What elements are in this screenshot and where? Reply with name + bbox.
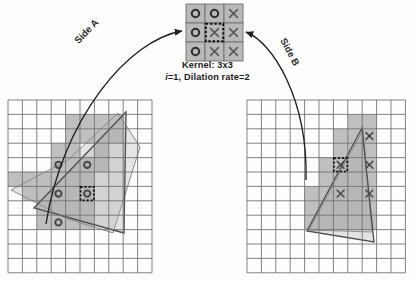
- shaded-cell: [348, 114, 362, 128]
- kernel-cell: [205, 4, 224, 23]
- shaded-cell: [8, 172, 22, 186]
- kernel-cell: [186, 42, 205, 61]
- kernel-cell: [186, 23, 205, 42]
- shaded-cell: [305, 186, 319, 200]
- diagram-canvas: Kernel: 3x3 i=1, Dilation rate=2 Side A …: [0, 0, 415, 281]
- shaded-cell: [319, 158, 333, 172]
- kernel-caption-size: Kernel: 3x3: [0, 60, 415, 70]
- shaded-cell: [80, 114, 94, 128]
- kernel-caption-dilation-rest: =1, Dilation rate=2: [168, 72, 250, 82]
- shaded-cell: [37, 215, 51, 229]
- diagram-svg: [0, 0, 415, 281]
- kernel-caption-dilation: i=1, Dilation rate=2: [0, 72, 415, 82]
- kernel-grid: [186, 4, 243, 61]
- shaded-cell: [333, 129, 347, 143]
- left-feature-map: [8, 100, 152, 273]
- kernel-cell: [186, 4, 205, 23]
- shaded-cell: [51, 215, 65, 229]
- shaded-cell: [362, 114, 376, 128]
- shaded-cell: [333, 143, 347, 157]
- right-feature-map: [247, 100, 405, 273]
- shaded-cell: [51, 143, 65, 157]
